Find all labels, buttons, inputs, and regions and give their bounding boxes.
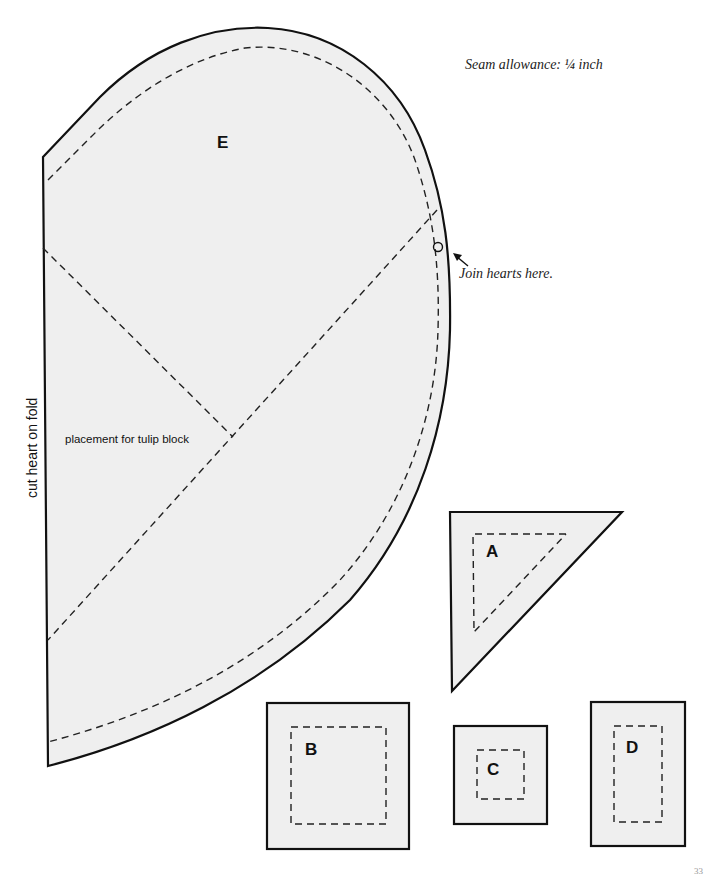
piece-label-b: B	[305, 740, 317, 759]
pattern-piece-d: D	[591, 702, 685, 846]
pattern-piece-a: A	[450, 512, 622, 691]
piece-label-d: D	[626, 738, 638, 757]
arrow-up-left-icon	[453, 253, 468, 266]
piece-label-e: E	[217, 133, 228, 152]
seam-allowance-note: Seam allowance: ¼ inch	[465, 57, 603, 73]
heart-outline	[43, 28, 450, 766]
pattern-piece-b: B	[267, 703, 409, 849]
fold-note: cut heart on fold	[24, 398, 40, 498]
rect-d-outline	[591, 702, 685, 846]
square-c-outline	[454, 726, 547, 824]
piece-label-c: C	[487, 760, 499, 779]
piece-label-a: A	[486, 542, 498, 561]
pattern-piece-e: E placement for tulip block cut heart on…	[24, 28, 468, 766]
square-b-outline	[267, 703, 409, 849]
join-hearts-note: Join hearts here.	[459, 266, 553, 282]
page-number: 33	[694, 866, 703, 876]
pattern-sheet: E placement for tulip block cut heart on…	[0, 0, 710, 876]
pattern-piece-c: C	[454, 726, 547, 824]
triangle-outline	[450, 512, 622, 691]
placement-note: placement for tulip block	[65, 433, 189, 445]
